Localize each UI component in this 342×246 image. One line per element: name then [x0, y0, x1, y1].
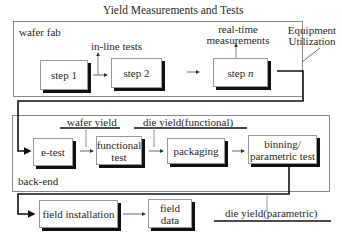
inline-tests-label: in-line tests	[91, 41, 142, 52]
field-installation-label: field installation	[43, 208, 115, 220]
step-n-label: step n	[228, 67, 254, 79]
step-2-label: step 2	[124, 67, 150, 79]
step-1-label: step 1	[51, 69, 77, 81]
wafer-yield-label: wafer yield	[67, 117, 117, 128]
functional-test-line-1: functional	[97, 139, 142, 151]
functional-test-line-2: test	[97, 151, 142, 163]
field-data-box: field data	[148, 199, 192, 228]
field-data-label: field data	[160, 202, 180, 226]
packaging-box: packaging	[167, 138, 225, 164]
e-test-label: e-test	[41, 146, 65, 158]
equipment-pointer	[302, 48, 320, 62]
step-1-box: step 1	[40, 60, 88, 90]
step-n-variable: n	[248, 67, 254, 79]
e-test-box: e-test	[33, 138, 73, 166]
field-installation-box: field installation	[39, 200, 118, 228]
die-yield-functional-label: die yield(functional)	[143, 117, 233, 128]
binning-line-1: binning/	[250, 138, 315, 150]
binning-line-2: parametric test	[250, 150, 315, 162]
binning-box: binning/ parametric test	[248, 135, 317, 164]
realtime-label-2: measurements	[205, 35, 271, 46]
step-n-box: step n	[213, 58, 268, 87]
functional-test-box: functional test	[96, 136, 142, 165]
step-n-prefix: step	[228, 67, 248, 79]
field-data-line-1: field	[160, 202, 180, 214]
die-yield-parametric-label: die yield(parametric)	[225, 208, 318, 219]
packaging-label: packaging	[173, 145, 218, 157]
equipment-label-2: Utilization	[283, 36, 341, 47]
functional-test-label: functional test	[97, 139, 142, 163]
binning-label: binning/ parametric test	[250, 138, 315, 162]
step-2-box: step 2	[111, 58, 162, 88]
field-data-line-2: data	[160, 214, 180, 226]
